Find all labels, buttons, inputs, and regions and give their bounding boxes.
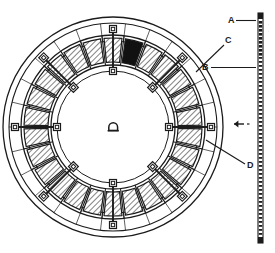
scale-tick — [259, 213, 262, 215]
edge-mark-1: · — [268, 22, 269, 27]
scale-tick — [259, 161, 262, 163]
scale-tick — [259, 181, 262, 183]
scale-tick — [259, 49, 262, 52]
scale-tick — [259, 69, 262, 71]
scale-tick — [259, 185, 262, 187]
scale-tick — [259, 157, 262, 159]
scale-tick — [259, 229, 262, 231]
direction-arrow-icon — [234, 120, 250, 127]
scale-strip-cap-top — [258, 13, 263, 19]
scale-tick — [259, 109, 262, 111]
scale-tick — [259, 97, 262, 99]
label-c: C — [225, 36, 232, 45]
scale-tick — [259, 41, 262, 44]
scale-tick — [259, 89, 262, 91]
scale-tick — [259, 201, 262, 203]
fastener-plate — [110, 222, 117, 229]
scale-tick — [259, 81, 262, 83]
fastener-plate — [12, 124, 19, 131]
scale-tick — [259, 177, 262, 179]
scale-tick — [259, 61, 262, 63]
outer-band-joint — [54, 41, 64, 56]
fastener-plate — [110, 68, 117, 75]
scale-tick — [259, 233, 262, 235]
scale-tick — [259, 85, 262, 87]
scale-tick — [259, 101, 262, 103]
fastener-plate — [54, 124, 61, 131]
outer-band-joint — [54, 198, 64, 213]
scale-tick — [259, 57, 262, 59]
scale-tick — [259, 197, 262, 199]
scale-tick — [259, 25, 262, 28]
scale-tick — [259, 173, 262, 175]
label-d: D — [247, 161, 254, 170]
scale-tick — [259, 77, 262, 79]
fastener-plate — [110, 26, 117, 33]
scale-tick — [259, 217, 262, 219]
scale-tick — [259, 29, 262, 32]
edge-mark-2: · — [268, 29, 269, 34]
scale-tick — [259, 221, 262, 223]
technical-drawing-figure — [0, 0, 275, 253]
scale-tick — [259, 137, 262, 139]
scale-tick — [259, 169, 262, 171]
fastener-plate — [166, 124, 173, 131]
scale-tick — [259, 209, 262, 211]
fastener-group — [12, 26, 215, 229]
scale-tick — [259, 113, 262, 115]
scale-tick — [259, 45, 262, 48]
outer-band-joint — [162, 198, 172, 213]
scale-tick — [259, 129, 262, 131]
scale-tick — [259, 105, 262, 107]
scale-tick — [259, 125, 262, 127]
scale-tick — [259, 153, 262, 155]
scale-tick — [259, 53, 262, 56]
fastener-plate — [110, 180, 117, 187]
scale-tick — [259, 93, 262, 95]
scale-tick — [259, 121, 262, 123]
scale-tick — [259, 21, 262, 24]
scale-tick — [259, 65, 262, 67]
scale-tick — [259, 117, 262, 119]
fastener-plate — [208, 124, 215, 131]
drawing-canvas: A C B D · · — [0, 0, 275, 253]
arch-symbol — [108, 123, 119, 131]
scale-tick — [259, 193, 262, 195]
outer-band-joint — [162, 41, 172, 56]
scale-strip-cap-bottom — [258, 237, 263, 243]
scale-tick — [259, 189, 262, 191]
scale-tick — [259, 133, 262, 135]
label-b: B — [202, 63, 209, 72]
scale-tick — [259, 33, 262, 36]
scale-tick — [259, 165, 262, 167]
scale-tick — [259, 225, 262, 227]
vertical-scale-strip — [258, 13, 263, 243]
scale-tick — [259, 205, 262, 207]
scale-tick — [259, 145, 262, 147]
scale-tick — [259, 149, 262, 151]
scale-tick — [259, 73, 262, 75]
label-a: A — [228, 16, 235, 25]
scale-tick — [259, 141, 262, 143]
scale-tick — [259, 37, 262, 40]
